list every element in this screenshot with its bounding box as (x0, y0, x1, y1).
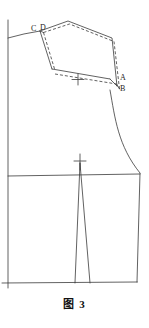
waist-dart-left-leg (75, 163, 80, 283)
point-label-b: B (120, 85, 125, 93)
point-label-d: D (40, 24, 46, 32)
bodice-block-group (2, 20, 140, 288)
sleeve-front-edge-dashed (44, 33, 56, 71)
ab-notch-group (110, 79, 120, 89)
point-label-c: C (31, 25, 36, 33)
figure-caption: 图 3 (0, 297, 149, 311)
chest-horizontal-line (8, 174, 140, 176)
a-notch-line (110, 79, 117, 86)
side-seam-line (137, 174, 140, 283)
hem-line (2, 282, 137, 283)
sleeve-underarm-dashed (55, 74, 117, 84)
bust-point-cross-icon (74, 154, 86, 170)
sleeve-cap-solid-outline (40, 21, 117, 86)
point-label-a: A (120, 74, 126, 82)
armhole-curve-path (110, 90, 140, 173)
pattern-drawing (0, 0, 149, 328)
pattern-figure: C D A B 图 3 (0, 0, 149, 328)
sleeve-underarm-solid (52, 69, 110, 79)
sleeve-front-edge-solid (40, 31, 52, 69)
waist-dart-right-leg (80, 163, 90, 283)
sleeve-piece-solid-group (40, 21, 117, 86)
sleeve-balance-cross-icon (72, 74, 84, 85)
